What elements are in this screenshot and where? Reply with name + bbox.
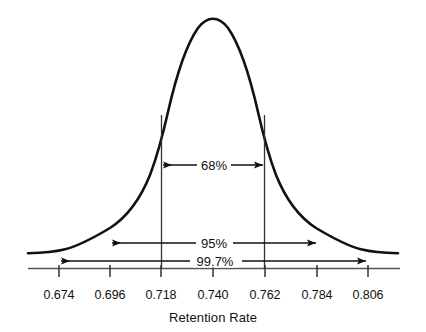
normal-distribution-chart: 68% 95% 99.7% 0.674 0.696 0.718 0.740 0.… <box>0 0 426 332</box>
band-label-997: 99.7% <box>193 255 238 268</box>
x-axis-title: Retention Rate <box>169 310 257 325</box>
x-tick-label-3: 0.740 <box>198 288 229 302</box>
distribution-curve <box>28 19 398 253</box>
x-tick-label-6: 0.806 <box>353 288 384 302</box>
band-label-68: 68% <box>197 159 231 172</box>
x-tick-label-5: 0.784 <box>302 288 333 302</box>
band-label-95: 95% <box>197 237 231 250</box>
x-tick-label-1: 0.696 <box>95 288 126 302</box>
x-tick-label-4: 0.762 <box>250 288 281 302</box>
x-tick-label-2: 0.718 <box>146 288 177 302</box>
x-tick-label-0: 0.674 <box>44 288 75 302</box>
